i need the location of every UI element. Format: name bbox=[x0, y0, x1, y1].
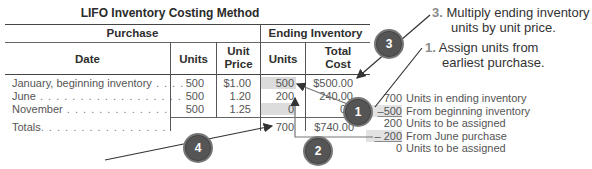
arrow-step-1 bbox=[297, 84, 350, 105]
badge-1-icon: 1 bbox=[343, 97, 373, 127]
badge-2-icon: 2 bbox=[303, 136, 333, 166]
badge-3-icon: 3 bbox=[374, 29, 404, 59]
badge-4-icon: 4 bbox=[183, 133, 213, 163]
